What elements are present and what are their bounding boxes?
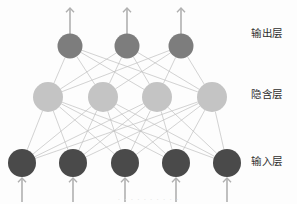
hidden-layer-label: 隐含层 [251,89,283,100]
input-layer-nodes [8,149,241,177]
output-layer-label: 输出层 [251,28,283,39]
watermark-text: · · · · · · · · · · [0,196,297,204]
neural-network-diagram: 输出层 隐含层 输入层 · · · · · · · · · · [0,0,297,204]
input-layer-label: 输入层 [251,156,283,167]
output-layer-nodes [58,34,194,59]
output-arrows [70,8,181,34]
